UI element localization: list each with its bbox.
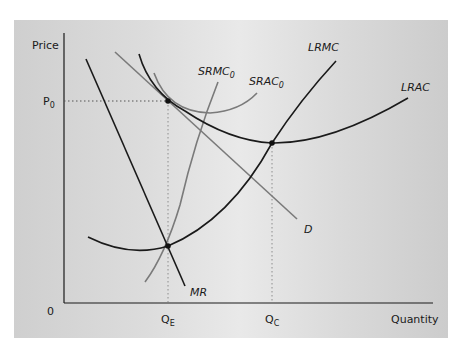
srac0-curve — [154, 73, 257, 113]
lrac-label: LRAC — [401, 81, 430, 94]
srmc0-label: SRMC0 — [198, 65, 235, 80]
y-axis-label: Price — [32, 39, 59, 52]
mr-lrmc-intersection-point — [165, 243, 171, 249]
mr-curve — [86, 59, 185, 286]
qe-tick-label: QE — [161, 313, 175, 328]
x-axis-label: Quantity — [391, 313, 439, 326]
lrmc-curve — [88, 61, 336, 250]
mr-label: MR — [190, 286, 207, 299]
lrac-minimum-point — [269, 140, 275, 146]
cost-curves-chart: Price Quantity 0 P0 QE QC LRMC LRAC SRMC… — [0, 0, 465, 355]
srac0-label: SRAC0 — [249, 75, 284, 90]
equilibrium-price-point — [165, 98, 171, 104]
lrmc-label: LRMC — [308, 41, 339, 54]
origin-label: 0 — [47, 305, 54, 318]
qc-tick-label: QC — [265, 313, 280, 328]
lrac-curve — [139, 54, 408, 143]
demand-label: D — [304, 223, 312, 236]
p0-tick-label: P0 — [43, 95, 55, 110]
